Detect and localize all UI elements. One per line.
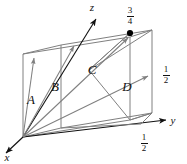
z-axis-label: z — [89, 1, 95, 13]
point-marker-three-quarters — [127, 30, 133, 36]
fraction-top-three-quarters: 3 4 — [123, 6, 137, 26]
marker-chords — [61, 30, 152, 128]
fraction-bottom-numerator: 1 — [137, 133, 151, 142]
cube-back-face-edge-top — [61, 30, 152, 45]
vector-d-label: D — [121, 79, 132, 94]
cube-depth-edge-top-left — [23, 45, 61, 54]
fraction-bottom-one-half: 1 2 — [137, 133, 151, 153]
vector-a-label: A — [26, 92, 35, 107]
unit-cell-figure: z y x A B C D 3 4 1 2 1 2 — [0, 0, 187, 164]
fraction-right-numerator: 1 — [159, 65, 173, 74]
fraction-top-denominator: 4 — [123, 17, 137, 26]
fraction-right-denominator: 2 — [159, 76, 173, 85]
y-axis-label: y — [170, 114, 176, 126]
fraction-right-one-half: 1 2 — [159, 65, 173, 85]
vector-b-label: B — [51, 79, 59, 94]
fraction-bottom-denominator: 2 — [137, 144, 151, 153]
cube-depth-edge-bottom-left — [23, 128, 61, 137]
vector-c-label: C — [88, 62, 97, 77]
chord-lower-cross-left — [89, 70, 130, 120]
x-axis-label: x — [4, 151, 10, 163]
chord-front-top-right-diagonal — [89, 30, 152, 70]
fraction-top-numerator: 3 — [123, 6, 137, 15]
